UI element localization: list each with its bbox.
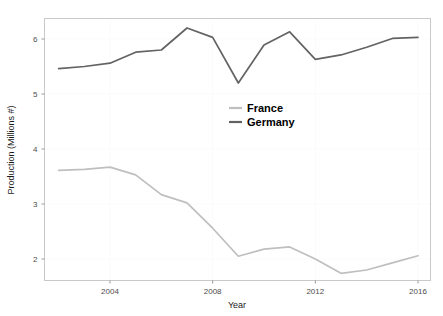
y-tick-label: 2	[33, 255, 38, 264]
x-tick-label: 2004	[101, 287, 119, 296]
chart-canvas: 23456 2004200820122016 FranceGermany Yea…	[0, 0, 443, 316]
legend-label-france: France	[247, 102, 283, 114]
x-axis-title: Year	[228, 300, 246, 310]
x-tick-label: 2012	[306, 287, 324, 296]
line-chart: 23456 2004200820122016 FranceGermany Yea…	[0, 0, 443, 316]
y-tick-label: 3	[33, 200, 38, 209]
y-tick-label: 4	[33, 145, 38, 154]
x-tick-label: 2016	[409, 287, 427, 296]
y-axis-title: Production (Millions #)	[6, 105, 16, 194]
y-tick-label: 5	[33, 90, 38, 99]
y-tick-label: 6	[33, 35, 38, 44]
legend-label-germany: Germany	[247, 116, 296, 128]
x-tick-label: 2008	[204, 287, 222, 296]
chart-background	[0, 0, 443, 316]
